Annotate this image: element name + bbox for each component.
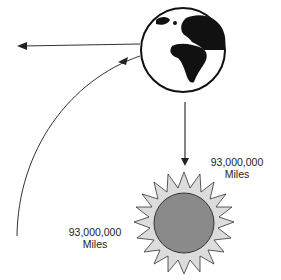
earth-sun-diagram: 93,000,000 Miles 93,000,000 Miles (0, 0, 281, 280)
orbit-arc-arrow (17, 56, 140, 236)
distance-value: 93,000,000 (60, 226, 130, 238)
earth-globe-icon (141, 8, 225, 92)
earth-to-sun-arrow (181, 102, 189, 166)
distance-label-left: 93,000,000 Miles (60, 226, 130, 250)
diagram-canvas (0, 0, 281, 280)
distance-unit: Miles (60, 238, 130, 250)
distance-value: 93,000,000 (202, 156, 272, 168)
left-arrow (17, 42, 140, 50)
distance-unit: Miles (202, 168, 272, 180)
distance-label-right: 93,000,000 Miles (202, 156, 272, 180)
sun-icon (134, 172, 234, 274)
